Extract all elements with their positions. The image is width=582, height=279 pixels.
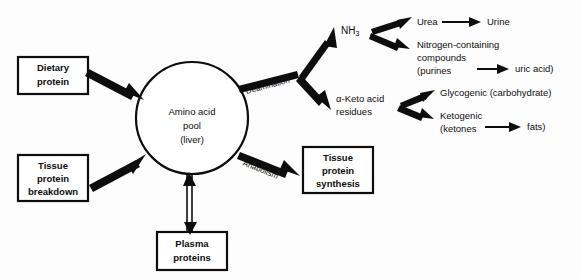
arrow-fork-to-ammonia-head: [324, 27, 337, 48]
tissue-protein-breakdown-label-line1: Tissue: [38, 160, 68, 171]
dietary-protein-label-line2: protein: [37, 76, 69, 87]
diagram-canvas: Dietary protein Tissue protein breakdown…: [0, 0, 582, 279]
urea-label: Urea: [417, 16, 438, 27]
ammonia-label-subscript: 3: [355, 30, 359, 37]
tissue-protein-synthesis-label-line1: Tissue: [323, 152, 353, 163]
nitrogen-compounds-label-line1: Nitrogen-containing: [417, 39, 499, 50]
plasma-proteins-label-line2: proteins: [173, 252, 210, 263]
nitrogen-compounds-label-line2: compounds: [417, 52, 466, 63]
glycogenic-label: Glycogenic (carbohydrate): [440, 87, 551, 98]
arrow-ammonia-to-nitrogen-shaft: [369, 33, 400, 51]
ketogenic-label-line1: Ketogenic: [440, 110, 483, 121]
nitrogen-compounds-label-line3: (purines: [417, 65, 452, 76]
amino-acid-pool-label-line3: (liver): [180, 134, 204, 145]
keto-acid-label-line2: residues: [336, 106, 372, 117]
fats-label: fats): [527, 121, 545, 132]
dietary-protein-label-line1: Dietary: [37, 62, 70, 73]
amino-acid-pool-label-line2: pool: [183, 120, 201, 131]
arrow-ketones-to-fats-head: [509, 122, 521, 132]
ammonia-label: NH3: [341, 25, 359, 37]
ketogenic-label-line2: (ketones: [440, 123, 477, 134]
amino-acid-pool-circle: [136, 62, 248, 174]
amino-acid-pool-label-line1: Amino acid: [169, 106, 216, 117]
uric-acid-label: uric acid): [515, 63, 554, 74]
arrow-fork-to-keto-shaft: [296, 75, 324, 106]
arrow-purines-to-uric-head: [497, 64, 509, 74]
plasma-proteins-label-line1: Plasma: [175, 238, 209, 249]
catabolism-label: Catabolism: [95, 162, 135, 189]
keto-acid-label-line1: α-Keto acid: [336, 93, 384, 104]
tissue-protein-breakdown-label-line2: protein: [37, 173, 69, 184]
tissue-protein-synthesis-label-line3: synthesis: [316, 178, 360, 189]
ammonia-label-text: NH: [341, 25, 355, 36]
urine-label: Urine: [487, 16, 510, 27]
arrow-keto-to-ketogenic-shaft: [397, 105, 424, 121]
arrow-dietary-to-pool-shaft: [85, 69, 135, 100]
tissue-protein-breakdown-label-line3: breakdown: [28, 186, 78, 197]
arrow-ammonia-to-urea-head: [397, 17, 412, 29]
arrow-urea-to-urine-head: [469, 17, 481, 27]
tissue-protein-synthesis-label-line2: protein: [322, 165, 354, 176]
metabolism-diagram: Dietary protein Tissue protein breakdown…: [0, 0, 582, 279]
